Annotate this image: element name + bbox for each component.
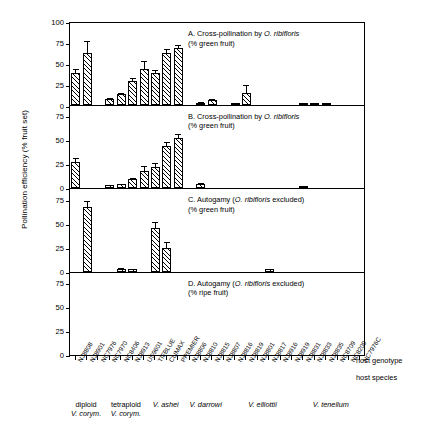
- error-bar: [178, 134, 179, 140]
- y-tick: [66, 225, 70, 226]
- y-tick: [66, 249, 70, 250]
- error-bar: [132, 78, 133, 82]
- bar: [83, 53, 92, 105]
- bar: [71, 73, 80, 105]
- bar: [117, 184, 126, 188]
- y-tick: [66, 201, 70, 202]
- y-tick-label: 25: [56, 328, 64, 336]
- species-label: V. elliottii: [228, 400, 296, 409]
- species-label: V. darrowi: [183, 400, 229, 409]
- bar: [265, 269, 274, 271]
- bar: [83, 207, 92, 272]
- error-bar: [87, 41, 88, 54]
- bar: [231, 103, 240, 104]
- y-tick-label: 50: [56, 61, 64, 69]
- y-axis-title: Pollination efficiency (% fruit set): [20, 60, 29, 280]
- error-bar: [121, 93, 122, 96]
- error-bar: [155, 163, 156, 168]
- error-bar: [121, 268, 122, 269]
- y-tick: [66, 332, 70, 333]
- bar: [174, 138, 183, 188]
- y-tick: [66, 23, 70, 24]
- species-label: diploidV. corym.: [69, 400, 103, 418]
- x-axis-species-labels: diploidV. corym.tetraploidV. corym.V. as…: [60, 400, 432, 430]
- error-bar: [166, 242, 167, 249]
- y-tick: [66, 117, 70, 118]
- error-bar: [166, 142, 167, 147]
- species-label: tetraploidV. corym.: [103, 400, 149, 418]
- bar: [128, 179, 137, 188]
- panel-caption-c: C. Autogamy (O. ribifloris excluded)(% g…: [188, 195, 304, 214]
- panel-caption-b: B. Cross-pollination by O. ribifloris(% …: [188, 112, 299, 131]
- error-bar: [75, 69, 76, 74]
- y-tick: [66, 44, 70, 45]
- y-tick: [66, 308, 70, 309]
- bar: [105, 185, 114, 188]
- host-species-label: host species: [356, 373, 397, 382]
- error-bar: [269, 269, 270, 270]
- bar: [162, 146, 171, 188]
- bar: [151, 167, 160, 188]
- y-tick-label: 75: [56, 114, 64, 122]
- bar: [162, 53, 171, 105]
- y-tick: [66, 141, 70, 142]
- bar: [174, 48, 183, 105]
- y-tick-label: 0: [60, 269, 64, 277]
- error-bar: [132, 178, 133, 181]
- error-bar: [75, 158, 76, 163]
- host-genotype-label: host genotype: [356, 356, 402, 365]
- y-tick-label: 75: [56, 281, 64, 289]
- panel-a: 0255075100A. Cross-pollination by O. rib…: [69, 22, 365, 106]
- bar: [105, 99, 114, 105]
- x-axis-genotype-labels: NJ8808NJ8901NC7976NC7970NC8406NJ8913US96…: [69, 360, 379, 404]
- error-bar: [178, 45, 179, 49]
- bar: [117, 94, 126, 104]
- bar: [140, 69, 149, 104]
- y-tick-label: 0: [60, 352, 64, 360]
- bar: [151, 228, 160, 272]
- error-bar: [155, 70, 156, 73]
- y-tick: [66, 284, 70, 285]
- y-tick-label: 50: [56, 221, 64, 229]
- bar: [208, 100, 217, 104]
- panel-caption-a: A. Cross-pollination by O. ribifloris(% …: [188, 29, 299, 48]
- y-tick-label: 25: [56, 245, 64, 253]
- y-tick: [66, 165, 70, 166]
- y-tick-label: 25: [56, 82, 64, 90]
- bar: [242, 93, 251, 105]
- error-bar: [132, 269, 133, 270]
- species-label: V. tenellum: [297, 400, 365, 409]
- bar: [151, 73, 160, 105]
- figure-canvas: Pollination efficiency (% fruit set) 025…: [0, 0, 432, 436]
- panel-b: 0255075B. Cross-pollination by O. ribifl…: [69, 106, 365, 190]
- panel-caption-d: D. Autogamy (O. ribifloris excluded)(% r…: [188, 279, 304, 298]
- error-bar: [109, 98, 110, 100]
- error-bar: [166, 49, 167, 54]
- error-bar: [246, 85, 247, 93]
- y-tick-label: 75: [56, 197, 64, 205]
- error-bar: [200, 183, 201, 185]
- error-bar: [303, 186, 304, 187]
- y-tick-label: 50: [56, 137, 64, 145]
- bar: [140, 171, 149, 188]
- y-tick-label: 100: [51, 19, 64, 27]
- bar: [196, 103, 205, 105]
- error-bar: [212, 99, 213, 102]
- bar: [128, 81, 137, 104]
- error-bar: [87, 201, 88, 208]
- error-bar: [200, 102, 201, 103]
- error-bar: [121, 184, 122, 185]
- species-label: V. ashei: [149, 400, 183, 409]
- error-bar: [144, 166, 145, 172]
- panel-c: 0255075C. Autogamy (O. ribifloris exclud…: [69, 189, 365, 273]
- bar: [310, 103, 319, 104]
- y-tick-label: 0: [60, 103, 64, 111]
- bar: [162, 248, 171, 272]
- y-tick-label: 25: [56, 161, 64, 169]
- error-bar: [109, 185, 110, 186]
- y-tick-label: 75: [56, 40, 64, 48]
- panel-stack: 0255075100A. Cross-pollination by O. rib…: [69, 22, 365, 356]
- y-tick: [66, 65, 70, 66]
- error-bar: [155, 222, 156, 229]
- y-tick-label: 50: [56, 304, 64, 312]
